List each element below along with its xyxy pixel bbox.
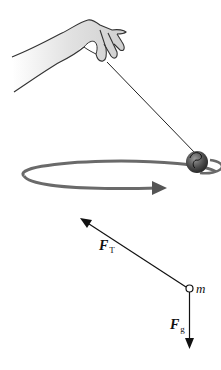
gravity-label: Fg [170,318,185,334]
mass-label: m [196,282,205,295]
tension-arrowhead-icon [80,218,92,228]
ball-icon [186,151,221,173]
conical-pendulum-diagram: FT m Fg [0,0,221,370]
mass-point-icon [186,285,193,292]
diagram-canvas [0,0,221,370]
tension-label: FT [99,239,115,255]
orbit-path-front [24,176,158,189]
gravity-arrowhead-icon [185,338,194,349]
orbit-arrowhead-icon [152,181,167,195]
hand-icon [12,20,126,92]
string [107,62,196,154]
